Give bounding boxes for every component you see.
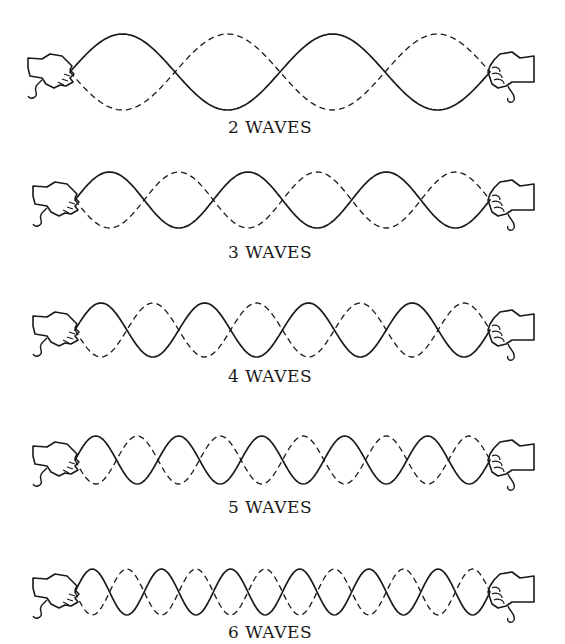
wave-count-label: 2 WAVES: [170, 117, 370, 137]
right-hand-icon: [488, 52, 534, 102]
wave-row: [70, 34, 490, 110]
left-hand-icon: [33, 574, 79, 618]
right-hand-icon: [488, 440, 534, 490]
right-hand-icon: [488, 572, 534, 622]
right-hand-icon: [488, 310, 534, 360]
right-hand-icon: [488, 180, 534, 230]
left-hand-icon: [28, 54, 74, 98]
wave-count-label: 3 WAVES: [170, 242, 370, 262]
left-hand-icon: [33, 182, 79, 226]
wave-count-label: 5 WAVES: [170, 497, 370, 517]
wave-count-label: 4 WAVES: [170, 366, 370, 386]
wave-row: [75, 569, 490, 615]
wave-row: [75, 436, 490, 484]
dashed-wave: [75, 303, 490, 357]
wave-row: [75, 303, 490, 357]
dashed-wave: [75, 172, 490, 228]
left-hand-icon: [33, 312, 79, 356]
solid-wave: [70, 34, 490, 110]
wave-count-label: 6 WAVES: [170, 622, 370, 642]
standing-waves-diagram: [0, 0, 565, 644]
solid-wave: [75, 569, 490, 615]
solid-wave: [75, 436, 490, 484]
left-hand-icon: [33, 442, 79, 486]
wave-row: [75, 172, 490, 228]
